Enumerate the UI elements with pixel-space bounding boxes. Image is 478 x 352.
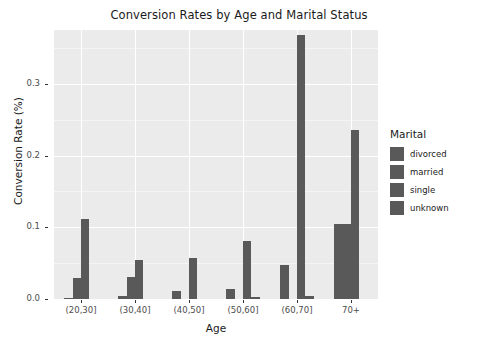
legend-swatch-married [390, 165, 404, 179]
gridline-minor-horizontal [54, 191, 378, 192]
x-tick-label: (60,70] [282, 305, 313, 315]
bar-divorced-(20,30] [64, 298, 72, 299]
bar-unknown-(50,60] [251, 297, 259, 299]
x-tick-mark [81, 300, 82, 303]
gridline-minor-horizontal [54, 263, 378, 264]
y-tick-label: 0.1 [26, 221, 40, 231]
bar-single-70+ [351, 130, 359, 299]
x-tick-label: 70+ [342, 305, 360, 315]
bar-married-(30,40] [127, 277, 135, 299]
gridline-major-horizontal [54, 227, 378, 228]
legend-label: divorced [410, 149, 447, 159]
bar-single-(30,40] [135, 260, 143, 299]
legend-title: Marital [390, 128, 476, 140]
x-axis-title: Age [54, 322, 378, 334]
bar-single-(60,70] [297, 35, 305, 299]
legend-label: married [410, 167, 443, 177]
gridline-major-vertical [135, 30, 136, 299]
legend-item-unknown[interactable]: unknown [390, 199, 476, 216]
legend-label: single [410, 185, 435, 195]
legend-swatch-unknown [390, 201, 404, 215]
y-tick-label: 0.3 [26, 78, 40, 88]
x-tick-mark [135, 300, 136, 303]
bar-divorced-(40,50] [172, 291, 180, 299]
y-tick-mark [45, 84, 48, 85]
x-tick-label: (50,60] [228, 305, 259, 315]
x-tick-mark [351, 300, 352, 303]
legend-item-list: divorcedmarriedsingleunknown [390, 145, 476, 216]
gridline-minor-horizontal [54, 48, 378, 49]
y-axis: 0.00.10.20.3 [0, 30, 48, 299]
plot-panel [54, 30, 378, 299]
x-tick-label: (20,30] [66, 305, 97, 315]
bar-single-(40,50] [189, 258, 197, 299]
bar-married-70+ [343, 224, 351, 299]
x-tick-mark [189, 300, 190, 303]
y-tick-label: 0.2 [26, 150, 40, 160]
bar-single-(20,30] [81, 219, 89, 299]
legend-item-single[interactable]: single [390, 181, 476, 198]
y-tick-mark [45, 156, 48, 157]
bar-unknown-(60,70] [305, 296, 313, 299]
legend: Marital divorcedmarriedsingleunknown [390, 128, 476, 217]
gridline-major-horizontal [54, 156, 378, 157]
chart-title: Conversion Rates by Age and Marital Stat… [0, 8, 478, 22]
bar-single-(50,60] [243, 241, 251, 299]
legend-label: unknown [410, 203, 449, 213]
gridline-major-horizontal [54, 84, 378, 85]
y-tick-mark [45, 299, 48, 300]
x-tick-label: (30,40] [120, 305, 151, 315]
legend-swatch-single [390, 183, 404, 197]
bar-divorced-(30,40] [118, 296, 126, 299]
y-tick-label: 0.0 [26, 293, 40, 303]
chart-container: Conversion Rates by Age and Marital Stat… [0, 0, 478, 352]
y-axis-title: Conversion Rate (%) [12, 71, 24, 231]
x-tick-mark [297, 300, 298, 303]
bar-divorced-(60,70] [280, 265, 288, 299]
x-tick-mark [243, 300, 244, 303]
bar-divorced-70+ [334, 224, 342, 299]
legend-swatch-divorced [390, 147, 404, 161]
y-tick-mark [45, 227, 48, 228]
bar-married-(20,30] [73, 278, 81, 299]
legend-item-married[interactable]: married [390, 163, 476, 180]
bar-divorced-(50,60] [226, 289, 234, 299]
x-tick-label: (40,50] [174, 305, 205, 315]
legend-item-divorced[interactable]: divorced [390, 145, 476, 162]
gridline-minor-horizontal [54, 120, 378, 121]
